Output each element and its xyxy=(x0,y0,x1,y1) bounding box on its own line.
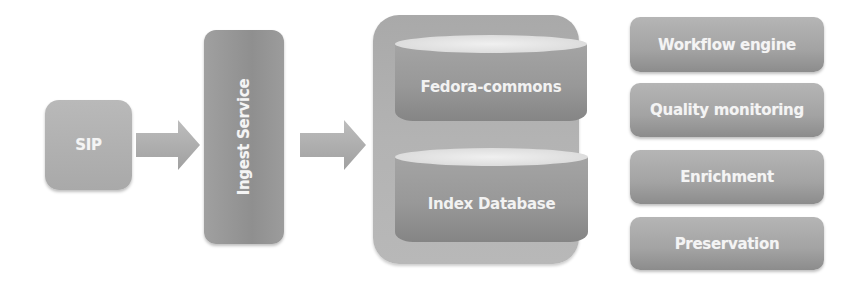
cylinder-body: Index Database xyxy=(395,157,588,242)
fedora-commons-cylinder: Fedora-commons xyxy=(395,35,587,121)
fedora-commons-label: Fedora-commons xyxy=(421,78,562,96)
enrichment-label: Enrichment xyxy=(680,168,774,186)
cylinder-top xyxy=(395,148,588,166)
quality-monitoring-label: Quality monitoring xyxy=(650,101,804,119)
preservation-box: Preservation xyxy=(630,217,824,270)
arrow-right-icon xyxy=(300,120,368,170)
workflow-engine-box: Workflow engine xyxy=(630,17,824,72)
sip-box: SIP xyxy=(45,100,132,190)
sip-label: SIP xyxy=(75,136,101,154)
cylinder-body: Fedora-commons xyxy=(395,44,587,121)
preservation-label: Preservation xyxy=(675,235,780,253)
workflow-engine-label: Workflow engine xyxy=(658,36,796,54)
ingest-service-box: Ingest Service xyxy=(204,30,284,244)
index-database-label: Index Database xyxy=(428,195,556,213)
enrichment-box: Enrichment xyxy=(630,150,824,204)
index-database-cylinder: Index Database xyxy=(395,148,588,242)
cylinder-top xyxy=(395,35,587,53)
quality-monitoring-box: Quality monitoring xyxy=(630,83,824,137)
arrow-right-icon xyxy=(136,120,202,170)
ingest-service-label: Ingest Service xyxy=(235,79,253,196)
